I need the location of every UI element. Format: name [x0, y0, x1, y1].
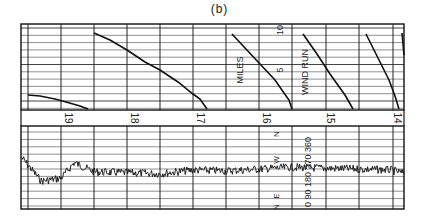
- hour-label: 17: [195, 112, 206, 124]
- hour-label: 14: [392, 112, 403, 124]
- wind-run-label: WIND RUN: [300, 49, 310, 95]
- wind-run-trace: [28, 95, 88, 109]
- chart-grid: [21, 24, 404, 209]
- hour-label: 18: [129, 112, 140, 124]
- compass-label: N: [272, 131, 281, 137]
- wind-recorder-chart: 191817161514MILESWIND RUN105NWEN0 90 180…: [0, 0, 439, 222]
- hour-label: 19: [63, 112, 74, 124]
- compass-label: W: [272, 156, 281, 164]
- wind-direction-trace: [22, 157, 404, 185]
- degree-scale: 0 90 180 270 360: [303, 137, 313, 207]
- miles-tick: 5: [275, 67, 285, 72]
- wind-run-trace: [94, 33, 207, 109]
- chart-labels: 191817161514MILESWIND RUN105NWEN0 90 180…: [63, 25, 403, 210]
- compass-label: N: [272, 204, 281, 210]
- miles-tick: 10: [275, 25, 285, 35]
- compass-label: E: [272, 193, 281, 198]
- hour-label: 16: [261, 112, 272, 124]
- miles-label: MILES: [235, 56, 245, 83]
- hour-label: 15: [325, 112, 336, 124]
